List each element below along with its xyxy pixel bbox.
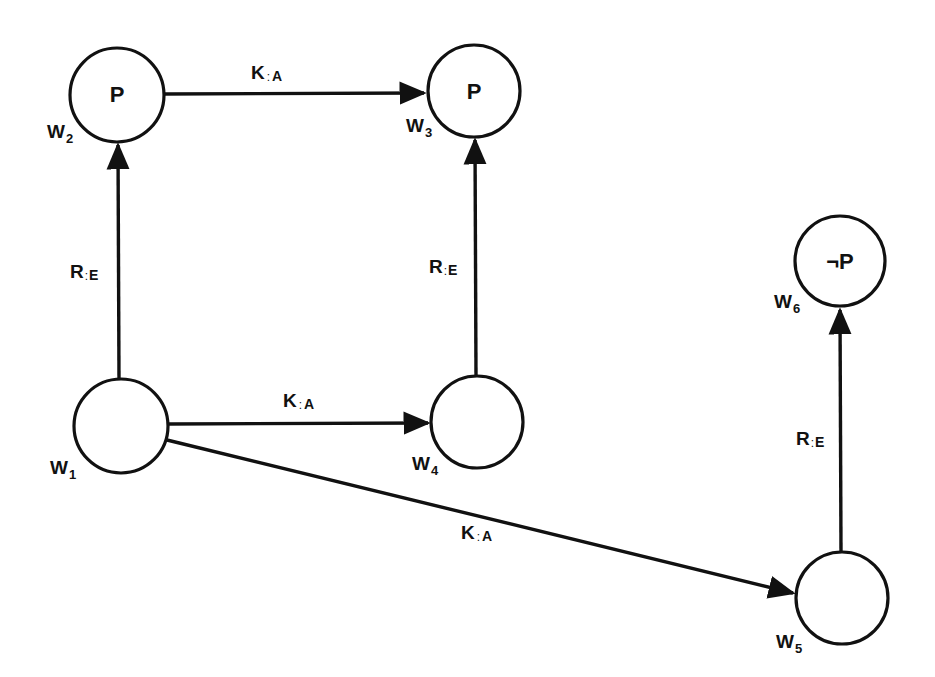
- world-node-w6: ¬P W6: [774, 216, 885, 316]
- edge-w4-w3: R:E: [429, 140, 476, 376]
- world-label-w6: W6: [774, 291, 800, 316]
- arrow-w2-to-w3: [164, 93, 424, 94]
- world-label-w3: W3: [406, 115, 432, 140]
- world-node-w1: W1: [50, 379, 168, 482]
- arrow-w4-to-w3: [475, 140, 476, 376]
- world-node-w4: W4: [412, 376, 523, 478]
- world-label-w1: W1: [50, 457, 76, 482]
- world-circle-w4: [431, 376, 523, 468]
- edge-w2-w3: K:A: [164, 62, 424, 94]
- edge-w1-w4: K:A: [169, 390, 428, 424]
- edge-label-w1-w5: K:A: [461, 522, 492, 544]
- arrow-w1-to-w2: [118, 145, 119, 379]
- world-proposition-w2: P: [110, 82, 125, 107]
- edge-label-w1-w2: R:E: [70, 261, 98, 283]
- edge-label-w4-w3: R:E: [429, 256, 457, 278]
- kripke-diagram: K:A R:E R:E K:A K:A R:E: [0, 0, 935, 677]
- edge-label-w2-w3: K:A: [251, 62, 282, 84]
- world-proposition-w3: P: [467, 79, 482, 104]
- world-circle-w1: [74, 379, 168, 473]
- world-label-w4: W4: [412, 453, 439, 478]
- world-circle-w5: [796, 552, 888, 644]
- arrow-w5-to-w6: [840, 310, 841, 551]
- world-proposition-w6: ¬P: [826, 249, 854, 274]
- world-label-w5: W5: [776, 631, 802, 656]
- world-node-w5: W5: [776, 552, 888, 656]
- edge-w5-w6: R:E: [796, 310, 841, 551]
- world-node-w2: P W2: [47, 48, 164, 146]
- world-label-w2: W2: [47, 121, 73, 146]
- arrow-w1-to-w4: [169, 423, 428, 424]
- edge-label-w5-w6: R:E: [796, 428, 824, 450]
- edge-w1-w2: R:E: [70, 145, 119, 379]
- edge-label-w1-w4: K:A: [283, 390, 314, 412]
